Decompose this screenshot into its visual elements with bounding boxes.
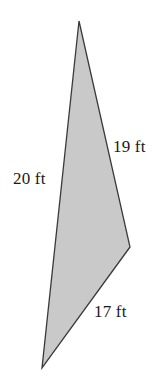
triangle-figure-svg [0, 0, 162, 391]
side-label-right-upper: 19 ft [113, 138, 146, 155]
side-label-bottom-right: 17 ft [94, 303, 127, 320]
figure-canvas: 20 ft 19 ft 17 ft [0, 0, 162, 391]
side-label-left: 20 ft [13, 170, 46, 187]
